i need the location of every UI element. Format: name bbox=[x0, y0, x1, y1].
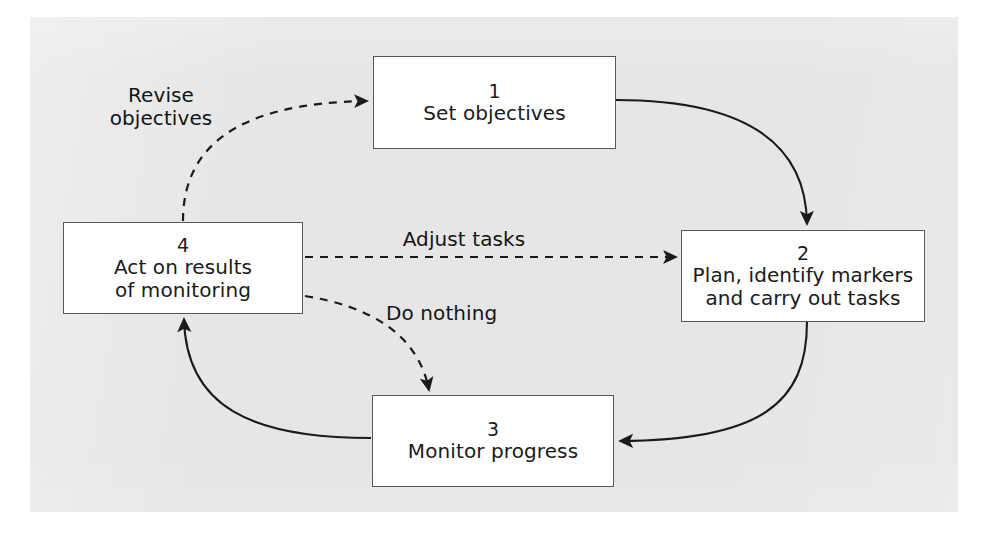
edge-label-revise-objectives: Revise objectives bbox=[85, 84, 237, 130]
node-number: 2 bbox=[797, 242, 809, 264]
edge-monitor-to-act bbox=[184, 319, 371, 438]
edge-label-adjust-tasks: Adjust tasks bbox=[380, 228, 548, 251]
edge-plan-to-monitor bbox=[620, 322, 807, 441]
node-set-objectives[interactable]: 1 Set objectives bbox=[373, 56, 616, 149]
edge-set-objectives-to-plan bbox=[616, 100, 807, 224]
edge-label-do-nothing: Do nothing bbox=[386, 302, 516, 325]
node-label: Act on results of monitoring bbox=[114, 256, 252, 302]
node-label: Plan, identify markers and carry out tas… bbox=[693, 264, 914, 310]
node-plan-identify-markers[interactable]: 2 Plan, identify markers and carry out t… bbox=[681, 230, 925, 322]
node-label: Set objectives bbox=[423, 102, 565, 125]
node-number: 4 bbox=[177, 234, 189, 256]
diagram-canvas: 1 Set objectives 2 Plan, identify marker… bbox=[0, 0, 988, 543]
node-label: Monitor progress bbox=[408, 440, 578, 463]
node-monitor-progress[interactable]: 3 Monitor progress bbox=[372, 395, 614, 487]
node-number: 3 bbox=[487, 418, 499, 440]
node-act-on-results[interactable]: 4 Act on results of monitoring bbox=[63, 222, 303, 314]
node-number: 1 bbox=[488, 80, 500, 102]
